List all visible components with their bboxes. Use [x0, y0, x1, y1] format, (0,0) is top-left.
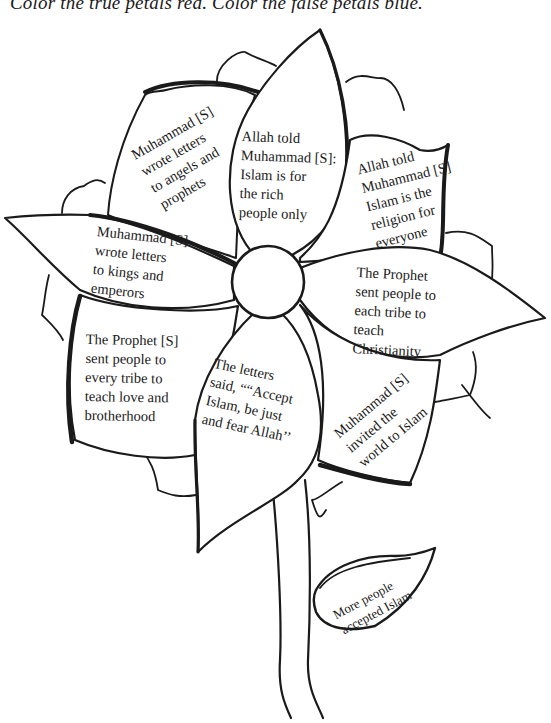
petal-rich-text[interactable]: Allah told Muhammad [S]: Islam is for th… — [239, 127, 338, 225]
worksheet-page: Color the true petals red. Color the fal… — [0, 0, 551, 723]
petal-christianity-text[interactable]: The Prophet sent people to each tribe to… — [352, 263, 437, 362]
flower-center[interactable] — [232, 246, 304, 318]
petal-brotherhood-text[interactable]: The Prophet [S] sent people to every tri… — [84, 330, 178, 427]
petal-kings-text[interactable]: Muhammad [S] wrote letters to kings and … — [90, 222, 189, 307]
flower-drawing — [0, 0, 551, 723]
